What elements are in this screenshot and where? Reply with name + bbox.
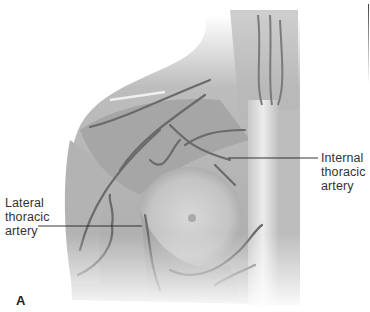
chest-artery-drawing bbox=[0, 0, 370, 312]
label-internal-thoracic-artery: Internal thoracic artery bbox=[321, 151, 366, 193]
panel-label: A bbox=[16, 293, 25, 308]
anatomical-illustration bbox=[0, 0, 370, 312]
page-edge-rule bbox=[368, 4, 369, 84]
label-lateral-thoracic-artery: Lateral thoracic artery bbox=[5, 196, 50, 238]
